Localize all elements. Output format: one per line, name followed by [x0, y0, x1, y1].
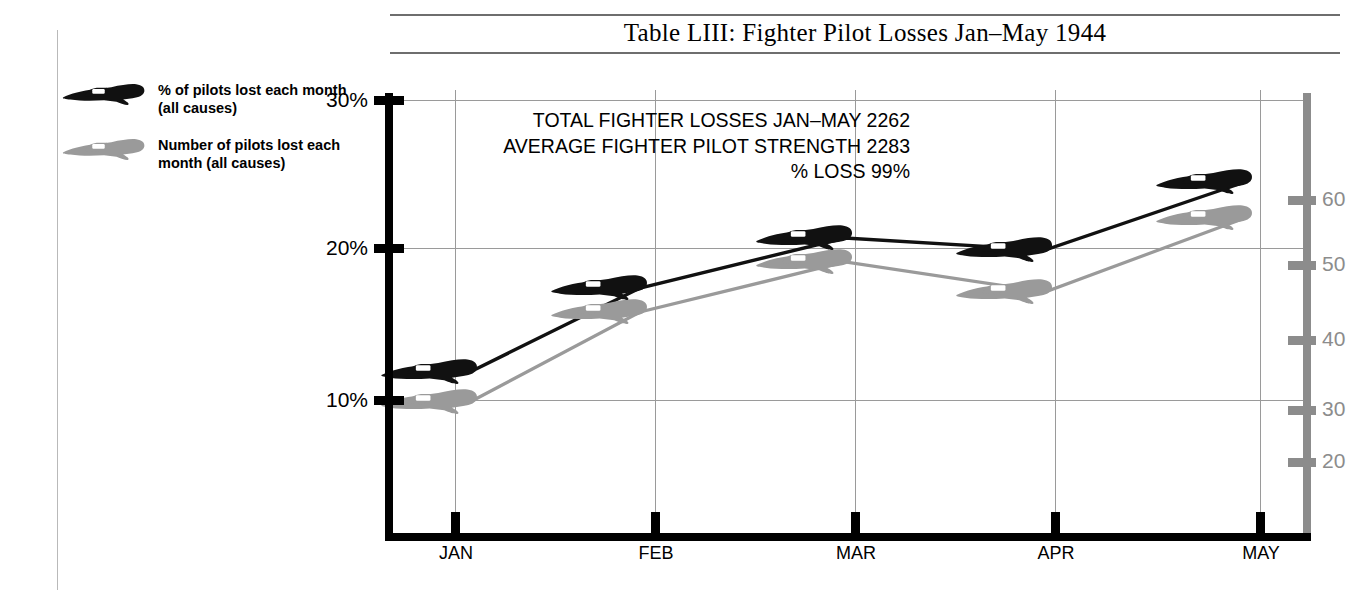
gridline-30pct — [390, 100, 1305, 101]
y-tick-left-20 — [374, 244, 404, 253]
fighter-plane-icon — [60, 137, 148, 162]
y-tick-right-40 — [1288, 336, 1316, 345]
gridline-20pct — [390, 248, 1305, 249]
fighter-plane-icon — [60, 82, 148, 107]
y-label-right-60: 60 — [1322, 187, 1345, 211]
title-rule-bottom — [390, 52, 1340, 54]
legend-item-label: Number of pilots lost each month (all ca… — [158, 135, 360, 172]
annotation-line-pct-loss: % LOSS 99% — [490, 159, 910, 185]
y-axis-left — [385, 93, 393, 541]
x-label-may: MAY — [1216, 543, 1306, 564]
gridline-10pct — [390, 400, 1305, 401]
x-label-jan: JAN — [411, 543, 501, 564]
y-label-right-30: 30 — [1322, 397, 1345, 421]
y-tick-right-50 — [1288, 261, 1316, 270]
y-tick-left-10 — [374, 396, 404, 405]
page-title: Table LIII: Fighter Pilot Losses Jan–May… — [390, 16, 1340, 52]
chart-page: Table LIII: Fighter Pilot Losses Jan–May… — [0, 0, 1355, 603]
x-tick-may — [1256, 512, 1265, 536]
annotation-line-total-losses: TOTAL FIGHTER LOSSES JAN–MAY 2262 — [490, 108, 910, 134]
gridline-jan — [455, 90, 456, 535]
gridline-apr — [1055, 90, 1056, 535]
y-label-right-40: 40 — [1322, 327, 1345, 351]
y-tick-right-20 — [1288, 458, 1316, 467]
x-label-feb: FEB — [611, 543, 701, 564]
y-label-left-10: 10% — [288, 388, 368, 412]
y-tick-right-60 — [1288, 196, 1316, 205]
annotation-line-avg-strength: AVERAGE FIGHTER PILOT STRENGTH 2283 — [490, 134, 910, 160]
y-tick-left-30 — [374, 96, 404, 105]
x-label-apr: APR — [1011, 543, 1101, 564]
gridline-may — [1260, 90, 1261, 535]
y-label-right-20: 20 — [1322, 449, 1345, 473]
x-label-mar: MAR — [811, 543, 901, 564]
title-block: Table LIII: Fighter Pilot Losses Jan–May… — [390, 14, 1340, 54]
x-tick-apr — [1051, 512, 1060, 536]
x-axis — [385, 533, 1311, 541]
y-tick-right-30 — [1288, 406, 1316, 415]
y-label-left-20: 20% — [288, 236, 368, 260]
y-label-right-50: 50 — [1322, 252, 1345, 276]
x-tick-feb — [651, 512, 660, 536]
y-axis-right — [1303, 93, 1311, 541]
chart-annotation: TOTAL FIGHTER LOSSES JAN–MAY 2262 AVERAG… — [490, 108, 910, 185]
y-label-left-30: 30% — [288, 88, 368, 112]
x-tick-jan — [451, 512, 460, 536]
legend-item-number-lost: Number of pilots lost each month (all ca… — [60, 135, 360, 172]
page-left-rule — [57, 30, 58, 590]
x-tick-mar — [851, 512, 860, 536]
